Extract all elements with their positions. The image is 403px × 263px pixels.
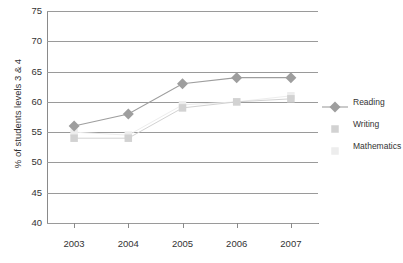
data-point-square-icon bbox=[331, 147, 339, 155]
chart-legend: Reading Writing Mathematics bbox=[322, 96, 403, 162]
legend-item-reading: Reading bbox=[322, 96, 403, 118]
legend-label: Mathematics bbox=[353, 141, 401, 151]
x-tick-label: 2003 bbox=[54, 238, 94, 249]
data-point-diamond-icon bbox=[330, 102, 341, 113]
x-tick-mark bbox=[291, 223, 292, 228]
line-chart: % of students levels 3 & 4 4045505560657… bbox=[0, 0, 403, 263]
x-tick-label: 2005 bbox=[163, 238, 203, 249]
legend-item-mathematics: Mathematics bbox=[322, 140, 403, 162]
x-tick-mark bbox=[128, 223, 129, 228]
legend-item-writing: Writing bbox=[322, 118, 403, 140]
legend-label: Reading bbox=[353, 97, 385, 107]
x-tick-label: 2006 bbox=[217, 238, 257, 249]
legend-marker-diamond-icon bbox=[322, 99, 348, 111]
x-tick-label: 2004 bbox=[108, 238, 148, 249]
x-tick-mark bbox=[183, 223, 184, 228]
x-tick-label: 2007 bbox=[271, 238, 311, 249]
legend-label: Writing bbox=[353, 119, 379, 129]
x-tick-mark bbox=[74, 223, 75, 228]
x-tick-mark bbox=[237, 223, 238, 228]
legend-marker-square-icon bbox=[322, 121, 348, 133]
data-point-square-icon bbox=[331, 125, 339, 133]
legend-marker-square-icon bbox=[322, 143, 348, 155]
